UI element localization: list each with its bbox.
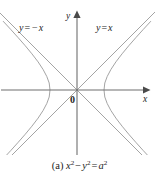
y-axis-label: y [66,12,70,22]
x-axis-label: x [143,95,147,105]
asymptote-negative-label: y=−x [19,23,43,33]
hyperbola-figure: y=−x y=x y x 0 (a) x2−y2=a2 [0,0,159,184]
caption-tag: (a) [52,160,64,171]
caption-exp-a: 2 [104,159,108,167]
figure-caption: (a) x2−y2=a2 [0,160,159,172]
origin-label: 0 [70,95,75,105]
asymptote-pos-rhs: x [108,22,112,33]
asymptote-neg-sign: − [31,22,39,33]
asymptote-pos-equals: = [100,22,108,33]
asymptote-neg-equals: = [23,22,31,33]
hyperbola-left-branch [3,21,50,155]
asymptote-neg-rhs: x [39,22,43,33]
asymptote-positive-label: y=x [96,23,113,33]
x-axis-arrow-icon [143,86,151,93]
y-axis-arrow-icon [73,11,80,19]
